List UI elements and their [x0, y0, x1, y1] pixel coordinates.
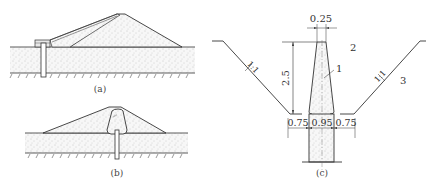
cutoff-wall-b [115, 130, 119, 159]
callout-1: 1 [336, 63, 342, 74]
callout-3: 3 [400, 75, 406, 86]
embankment-b [43, 107, 166, 133]
cutoff-wall [41, 43, 46, 77]
figure-canvas: (a) (b) 0.25 [0, 0, 435, 188]
caption-c: (c) [316, 168, 328, 178]
callout-2: 2 [350, 42, 356, 53]
dim-top-width: 0.25 [310, 13, 332, 24]
ground-hatch [10, 74, 188, 78]
cutoff-wall-body [309, 42, 334, 118]
dim-height: 2.5 [280, 70, 291, 86]
panel-c: 0.25 2.5 0.75 0.95 0.75 1:1 1:1 1 2 3 (c… [212, 13, 426, 178]
ground-hatch-b [28, 154, 182, 158]
panel-a: (a) [10, 14, 195, 94]
caption-b: (b) [111, 168, 124, 178]
caption-a: (a) [94, 84, 106, 94]
foundation-layer-b [25, 133, 188, 153]
dim-bottom-center: 0.95 [311, 117, 332, 128]
slope-left-label: 1:1 [245, 60, 260, 76]
panel-b: (b) [25, 107, 188, 178]
dim-bottom-left: 0.75 [287, 117, 308, 128]
dim-bottom-right: 0.75 [335, 117, 356, 128]
foundation-layer [10, 47, 195, 73]
